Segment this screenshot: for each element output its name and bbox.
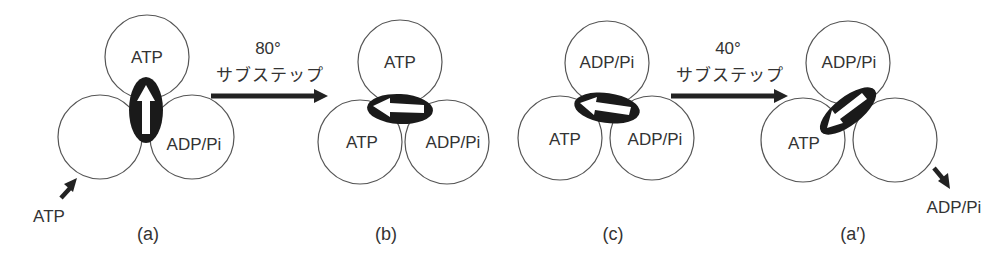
panel-caption: (a′) — [840, 224, 865, 244]
subunit-left-label: ATP — [346, 133, 378, 152]
released-adp-label: ADP/Pi — [927, 198, 982, 217]
atp-binding-arrow — [61, 178, 77, 198]
gamma-subunit — [129, 77, 163, 143]
panel-caption: (a) — [137, 224, 159, 244]
substep-label: サブステップ — [216, 65, 324, 85]
transition-c-aprime: 40° サブステップ — [671, 39, 788, 103]
subunit-right-label: ADP/Pi — [167, 135, 222, 154]
subunit-top-label: ATP — [384, 53, 416, 72]
subunit-left-label: ATP — [788, 134, 820, 153]
adp-release-arrow — [934, 168, 950, 189]
subunit-left-label: ATP — [549, 130, 581, 149]
arrow-right-icon — [774, 89, 788, 103]
incoming-atp-label: ATP — [33, 207, 65, 226]
rotation-angle: 40° — [715, 39, 741, 58]
subunit-top-label: ADP/Pi — [580, 53, 635, 72]
substep-label: サブステップ — [676, 65, 784, 85]
atpase-diagram: ATP ADP/Pi ATP (a) 80° サブステップ ATP ATP AD… — [0, 0, 1008, 259]
panel-a: ATP ADP/Pi ATP (a) — [33, 15, 234, 244]
subunit-top-label: ADP/Pi — [822, 53, 877, 72]
panel-caption: (b) — [375, 224, 397, 244]
arrow-right-icon — [314, 89, 328, 103]
subunit-top-label: ATP — [131, 48, 163, 67]
subunit-right-label: ADP/Pi — [628, 130, 683, 149]
panel-c: ADP/Pi ATP ADP/Pi (c) — [518, 21, 694, 244]
panel-b: ATP ATP ADP/Pi (b) — [318, 20, 489, 244]
panel-caption: (c) — [603, 224, 624, 244]
subunit-right-label: ADP/Pi — [426, 133, 481, 152]
transition-a-b: 80° サブステップ — [211, 39, 328, 103]
rotation-angle: 80° — [255, 39, 281, 58]
panel-a-prime: ADP/Pi ATP ADP/Pi (a′) — [761, 21, 981, 244]
